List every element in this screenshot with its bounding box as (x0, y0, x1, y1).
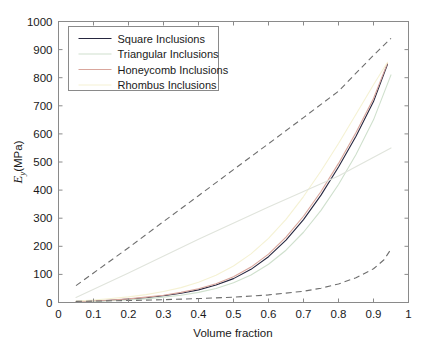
y-tick-label-7: 700 (33, 100, 52, 112)
x-tick-label-10: 1 (405, 308, 411, 320)
y-tick-label-8: 800 (33, 72, 52, 84)
x-tick-label-1: 0.1 (86, 308, 102, 320)
y-tick-label-4: 400 (33, 184, 52, 196)
y-tick-label-5: 500 (33, 156, 52, 168)
y-axis-title-unit: (MPa) (12, 140, 24, 171)
y-tick-label-6: 600 (33, 128, 52, 140)
x-tick-label-6: 0.6 (261, 308, 277, 320)
legend-label-square: Square Inclusions (118, 33, 206, 45)
y-tick-label-9: 900 (33, 44, 52, 56)
x-tick-label-4: 0.4 (191, 308, 208, 320)
x-axis-title: Volume fraction (193, 327, 272, 339)
x-tick-label-9: 0.9 (366, 308, 382, 320)
x-tick-label-0: 0 (55, 308, 61, 320)
x-tick-label-7: 0.7 (296, 308, 312, 320)
x-tick-label-3: 0.3 (156, 308, 172, 320)
x-tick-label-2: 0.2 (121, 308, 137, 320)
figure-container: 00.10.20.30.40.50.60.70.80.91 0100200300… (0, 0, 426, 343)
line-chart: 00.10.20.30.40.50.60.70.80.91 0100200300… (0, 0, 426, 343)
y-tick-label-10: 1000 (27, 16, 53, 28)
y-tick-label-0: 0 (46, 297, 52, 309)
legend[interactable]: Square InclusionsTriangular InclusionsHo… (69, 27, 229, 92)
legend-label-honeycomb: Honeycomb Inclusions (118, 64, 229, 76)
y-tick-label-3: 300 (33, 212, 52, 224)
legend-label-triangular: Triangular Inclusions (118, 48, 220, 60)
y-tick-label-2: 200 (33, 240, 52, 252)
x-tick-label-8: 0.8 (331, 308, 347, 320)
legend-label-rhombus: Rhombus Inclusions (118, 79, 218, 91)
x-tick-label-5: 0.5 (226, 308, 242, 320)
y-tick-label-1: 100 (33, 268, 52, 280)
